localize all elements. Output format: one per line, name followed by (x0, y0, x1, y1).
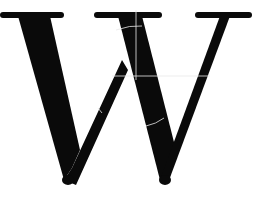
serif-w-glyph-image (0, 0, 264, 197)
letter-w-glyph (0, 12, 252, 185)
